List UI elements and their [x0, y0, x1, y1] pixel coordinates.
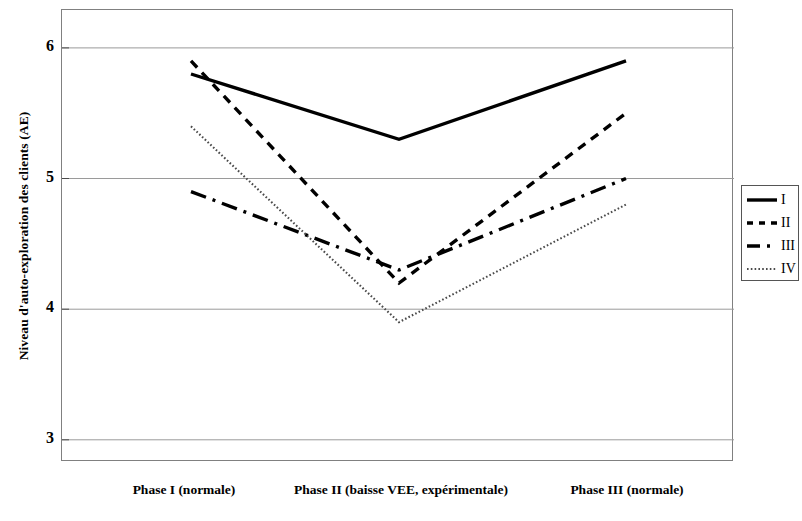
y-tick-label-3: 3 — [26, 430, 54, 446]
legend-item-IV[interactable]: IV — [742, 257, 800, 281]
legend-label-II: II — [781, 214, 790, 232]
legend-swatch-dash-dot-icon — [745, 234, 779, 258]
y-axis-tick-labels: 6 5 4 3 — [22, 0, 54, 521]
gridlines — [62, 48, 734, 440]
plot-area — [61, 9, 733, 461]
legend-label-I: I — [781, 191, 786, 209]
legend-item-III[interactable]: III — [742, 234, 800, 258]
plot-canvas — [62, 10, 734, 462]
series-line-III — [191, 179, 626, 271]
legend-item-II[interactable]: II — [742, 211, 800, 235]
x-tick-label-phase-3: Phase III (normale) — [512, 481, 742, 499]
series-line-I — [191, 61, 626, 139]
legend-swatch-solid-icon — [745, 188, 779, 212]
y-axis-ticks — [62, 48, 69, 440]
series-group — [191, 61, 626, 322]
x-tick-label-phase-1: Phase I (normale) — [66, 481, 302, 499]
legend-label-IV: IV — [781, 260, 796, 278]
y-tick-label-6: 6 — [26, 38, 54, 54]
legend-swatch-dotted-icon — [745, 257, 779, 281]
y-tick-label-5: 5 — [26, 169, 54, 185]
chart-figure: Niveau d'auto-exploration des clients (A… — [0, 0, 802, 521]
x-tick-label-phase-2: Phase II (baisse VEE, expérimentale) — [286, 481, 516, 499]
y-tick-label-4: 4 — [26, 299, 54, 315]
series-line-IV — [191, 126, 626, 322]
legend-swatch-dashed-icon — [745, 211, 779, 235]
legend-label-III: III — [781, 237, 795, 255]
chart-legend: I II III IV — [741, 185, 799, 281]
legend-item-I[interactable]: I — [742, 188, 800, 212]
